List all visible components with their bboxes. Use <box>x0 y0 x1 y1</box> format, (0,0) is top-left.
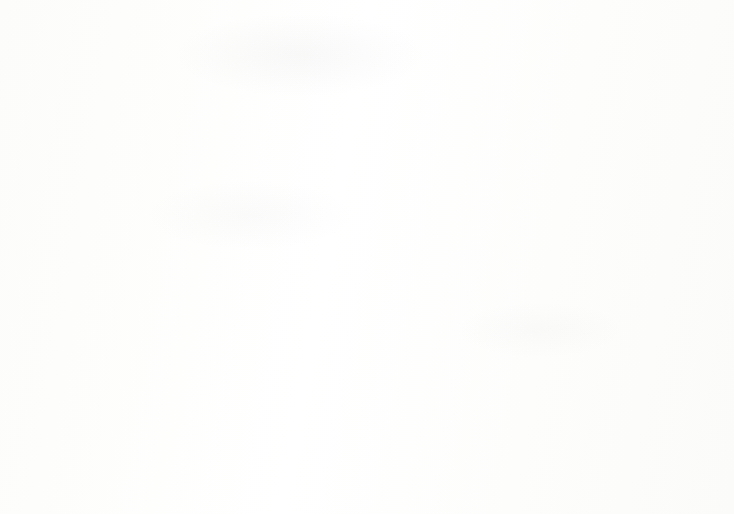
x-tick-label-1998: 1998 <box>132 464 162 480</box>
title-line-2: R&D (constant 2000 <box>68 26 318 47</box>
title-line-1: Gross expenditure on <box>68 5 318 26</box>
series-label-united-states: United States <box>414 167 492 183</box>
series-label-korea: Korea <box>414 391 450 407</box>
series-line-eu-27 <box>66 220 714 349</box>
y-tick-label-200: $200 <box>25 268 55 284</box>
chart-footnote: Asia-3: Japan, China, Korea <box>0 484 734 501</box>
y-tick-label-400: $400 <box>25 90 55 106</box>
x-tick-label-2002: 2002 <box>294 464 324 480</box>
chart-title: Gross expenditure on R&D (constant 2000 … <box>68 5 318 89</box>
x-tick-label-2004: 2004 <box>375 464 406 480</box>
x-tick-label-2006: 2006 <box>456 464 487 480</box>
y-tick-label-300: $300 <box>25 179 55 195</box>
title-line-3: U.S. $billions) <box>68 47 318 68</box>
x-tick-label-2010: 2010 <box>618 464 648 480</box>
series-label-japan: Japan <box>414 328 448 344</box>
series-label-asia-3: Asia-3 <box>414 224 453 240</box>
chart-page: Gross expenditure on R&D (constant 2000 … <box>0 0 734 514</box>
x-axis-ticks: 199619982000200220042006200820102012 <box>51 453 729 480</box>
x-tick-label-2000: 2000 <box>213 464 243 480</box>
series-label-eu-27: EU-27 <box>414 246 453 262</box>
y-tick-label-50: $50 <box>33 401 56 417</box>
chart-annotation: Estimates for 2009-2012 based on trailin… <box>134 101 612 118</box>
title-line-4: 1996-2012E <box>68 68 318 89</box>
x-tick-label-2012: 2012 <box>699 464 729 480</box>
y-tick-label-250: $250 <box>25 223 55 239</box>
x-tick-label-1996: 1996 <box>51 464 82 480</box>
series-label-china: China <box>414 354 449 370</box>
chart-axes <box>66 97 714 453</box>
y-tick-label-150: $150 <box>25 312 55 328</box>
y-tick-label-350: $350 <box>25 134 55 150</box>
series-labels: United StatesAsia-3EU-27JapanChinaKorea <box>414 167 492 407</box>
y-tick-label-0: $0 <box>40 446 55 462</box>
x-tick-label-2008: 2008 <box>537 464 567 480</box>
y-axis-ticks: $0$50$100$150$200$250$300$350$400 <box>25 90 66 462</box>
y-tick-label-100: $100 <box>25 357 55 373</box>
